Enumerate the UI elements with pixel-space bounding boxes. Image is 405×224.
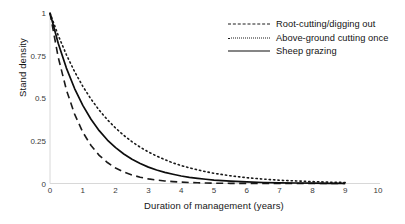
dotted-line-swatch-icon (228, 33, 270, 43)
legend-item-above-ground-cutting: Above-ground cutting once (228, 33, 388, 43)
legend-label: Above-ground cutting once (276, 33, 388, 43)
legend-label: Sheep grazing (276, 46, 337, 56)
solid-line-swatch-icon (228, 46, 270, 56)
legend-item-root-cutting: Root-cutting/digging out (228, 19, 388, 29)
chart-figure: Stand density Duration of management (ye… (0, 0, 405, 224)
legend-label: Root-cutting/digging out (276, 19, 375, 29)
dashed-line-swatch-icon (228, 19, 270, 29)
legend-item-sheep-grazing: Sheep grazing (228, 46, 388, 56)
chart-legend: Root-cutting/digging out Above-ground cu… (228, 19, 388, 56)
